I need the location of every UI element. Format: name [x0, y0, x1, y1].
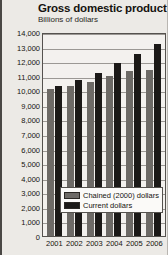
y-tick-label: 1,000: [2, 218, 40, 227]
x-tick-label: 2001: [46, 239, 62, 253]
y-tick-label: 2,000: [2, 203, 40, 212]
legend-label-chained: Chained (2000) dollars: [83, 191, 159, 200]
y-tick-label: 6,000: [2, 145, 40, 154]
x-tick-label: 2002: [66, 239, 82, 253]
y-tick-label: 13,000: [2, 43, 40, 52]
y-tick-label: 3,000: [2, 189, 40, 198]
y-axis: 14,00013,00012,00011,00010,0009,0008,000…: [2, 33, 40, 237]
y-tick-label: 4,000: [2, 174, 40, 183]
y-tick-label: 9,000: [2, 101, 40, 110]
y-tick-label: 7,000: [2, 131, 40, 140]
legend-swatch-current: [64, 202, 80, 209]
y-tick-label: 0: [2, 233, 40, 242]
bar: [47, 89, 54, 236]
gdp-bar-chart-figure: Gross domestic product Billions of dolla…: [0, 0, 168, 255]
y-tick-label: 10,000: [2, 87, 40, 96]
y-tick-label: 5,000: [2, 160, 40, 169]
x-tick-label: 2003: [86, 239, 102, 253]
legend-item: Current dollars: [64, 200, 159, 210]
legend-item: Chained (2000) dollars: [64, 190, 159, 200]
bar: [55, 86, 62, 236]
bar: [67, 86, 74, 236]
legend-label-current: Current dollars: [83, 201, 132, 210]
x-tick-label: 2005: [126, 239, 142, 253]
y-tick-label: 14,000: [2, 29, 40, 38]
x-tick-label: 2004: [106, 239, 122, 253]
chart-legend: Chained (2000) dollars Current dollars: [60, 187, 163, 213]
chart-subtitle: Billions of dollars: [38, 15, 98, 24]
y-tick-label: 11,000: [2, 72, 40, 81]
y-tick-label: 8,000: [2, 116, 40, 125]
x-axis: 200120022003200420052006: [42, 239, 166, 253]
legend-swatch-chained: [64, 192, 80, 199]
chart-title: Gross domestic product: [38, 2, 167, 14]
y-tick-label: 12,000: [2, 58, 40, 67]
x-tick-label: 2006: [146, 239, 162, 253]
